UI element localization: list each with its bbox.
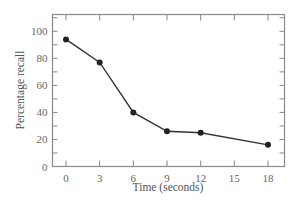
data-point xyxy=(63,36,69,42)
y-tick-label: 20 xyxy=(37,133,49,145)
y-tick-label: 60 xyxy=(37,79,49,91)
y-tick-label: 40 xyxy=(37,106,49,118)
y-tick-label: 80 xyxy=(37,52,49,64)
x-tick-label: 18 xyxy=(263,172,275,184)
x-tick-label: 15 xyxy=(229,172,241,184)
line-chart: 020406080100 0369121518 Time (seconds) P… xyxy=(0,0,302,207)
x-axis: 0369121518 xyxy=(63,15,274,184)
y-tick-label: 0 xyxy=(42,161,48,173)
x-tick-label: 0 xyxy=(63,172,69,184)
data-points xyxy=(63,36,271,147)
x-tick-label: 3 xyxy=(97,172,103,184)
plot-frame xyxy=(53,15,285,167)
y-axis-title: Percentage recall xyxy=(14,51,27,130)
data-point xyxy=(198,130,204,136)
data-point xyxy=(97,59,103,65)
y-tick-label: 100 xyxy=(31,25,48,37)
data-point xyxy=(265,142,271,148)
x-axis-title: Time (seconds) xyxy=(133,181,204,194)
data-point xyxy=(164,128,170,134)
data-point xyxy=(130,109,136,115)
